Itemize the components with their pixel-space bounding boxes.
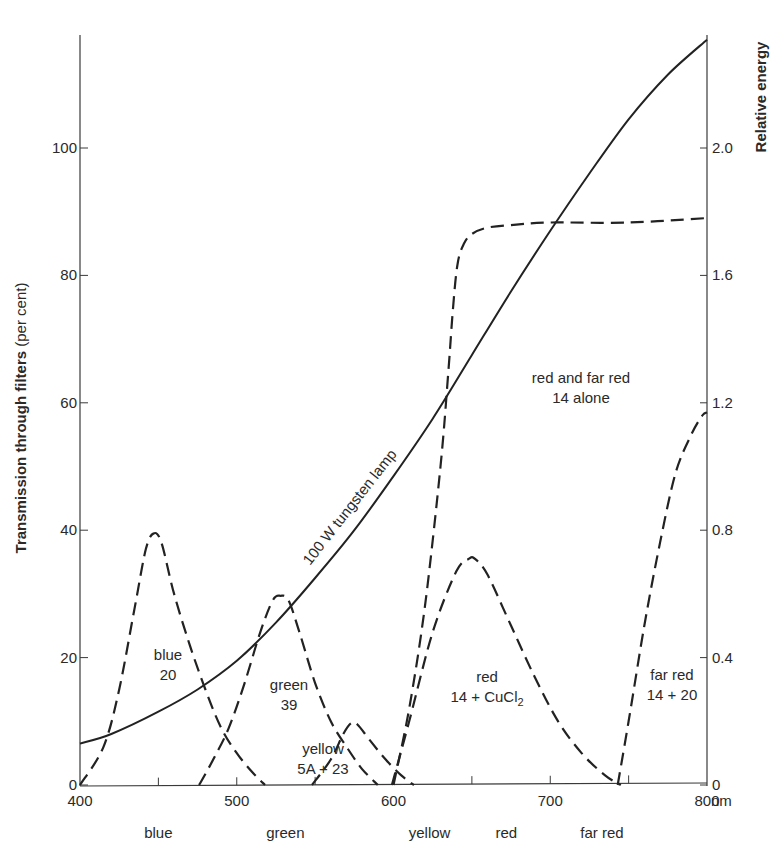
red-farred-filter-label: red and far red <box>532 369 630 386</box>
yellow-filter-label: yellow <box>302 740 344 757</box>
green-filter-number: 39 <box>281 696 298 713</box>
yellow-filter-number: 5A + 23 <box>297 760 348 777</box>
right-y-tick-label: 0.8 <box>712 521 733 538</box>
spectral-transmission-chart: 02040608010000.40.81.21.62.0400500600700… <box>0 0 779 851</box>
x-tick-label: 400 <box>67 792 92 809</box>
left-y-tick-label: 40 <box>60 521 77 538</box>
left-y-axis-title-bold: Transmission through filters <box>12 347 29 554</box>
red-filter-number-subscript: 2 <box>518 696 524 708</box>
left-y-tick-label: 100 <box>52 139 77 156</box>
red-filter-label: red <box>476 668 498 685</box>
spectral-band-label: green <box>266 824 304 841</box>
100-w-tungsten-lamp-curve <box>80 40 707 744</box>
blue-filter-number: 20 <box>160 666 177 683</box>
x-tick-label: 700 <box>538 792 563 809</box>
right-y-tick-label: 1.2 <box>712 394 733 411</box>
x-tick-label: 500 <box>224 792 249 809</box>
right-y-tick-label: 0 <box>712 776 720 793</box>
blue-filter-label: blue <box>154 646 182 663</box>
left-y-tick-label: 0 <box>69 776 77 793</box>
red-14-cucl2-curve <box>392 557 621 785</box>
green-filter-label: green <box>270 676 308 693</box>
x-tick-label: 600 <box>381 792 406 809</box>
left-y-tick-label: 20 <box>60 649 77 666</box>
farred-filter-number: 14 + 20 <box>647 686 697 703</box>
left-y-axis-title-unit: (per cent) <box>12 283 29 347</box>
right-y-tick-label: 2.0 <box>712 139 733 156</box>
farred-filter-label: far red <box>650 666 693 683</box>
red-filter-number: 14 + CuCl2 <box>450 688 523 708</box>
x-unit-label: nm <box>711 792 732 809</box>
left-y-tick-label: 80 <box>60 266 77 283</box>
right-y-tick-label: 1.6 <box>712 266 733 283</box>
axes: 02040608010000.40.81.21.62.0400500600700… <box>12 35 769 841</box>
left-y-axis-title: Transmission through filters (per cent) <box>12 283 29 554</box>
right-y-axis-title: Relative energy <box>752 41 769 153</box>
lamp-label: 100 W tungsten lamp <box>299 446 400 568</box>
far-red-14-20-curve <box>618 412 707 785</box>
red-filter-number-main: 14 + CuCl <box>450 688 517 705</box>
spectral-band-label: far red <box>580 824 623 841</box>
red-farred-filter-number: 14 alone <box>552 389 610 406</box>
spectral-band-label: red <box>496 824 518 841</box>
spectral-band-label: yellow <box>409 824 451 841</box>
right-y-tick-label: 0.4 <box>712 649 733 666</box>
left-y-tick-label: 60 <box>60 394 77 411</box>
spectral-band-label: blue <box>144 824 172 841</box>
